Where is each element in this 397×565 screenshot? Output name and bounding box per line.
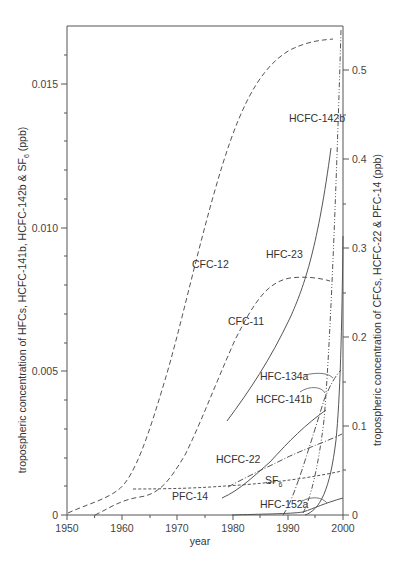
left-tick-0010: 0.010	[32, 222, 58, 234]
label-hfc152a: HFC-152a	[260, 498, 309, 510]
arrow-hfc134a	[305, 373, 333, 378]
right-y-ticks	[343, 70, 349, 515]
right-y-axis-title: tropospheric concentration of CFCs, HCFC…	[371, 154, 383, 446]
chart-svg: 1950 1960 1970 1980 1990 2000 year 0 0.0…	[0, 0, 397, 565]
right-tick-01: 0.1	[352, 420, 367, 432]
label-hfc134a: HFC-134a	[260, 370, 309, 382]
series-labels: HCFC-142b HFC-23 CFC-12 CFC-11 HFC-134a …	[172, 112, 345, 510]
label-cfc11: CFC-11	[228, 315, 264, 327]
label-cfc12: CFC-12	[192, 258, 229, 270]
x-tick-1980: 1980	[221, 522, 245, 534]
label-hcfc141b: HCFC-141b	[256, 393, 312, 405]
series-cfc12	[68, 39, 333, 513]
x-tick-1970: 1970	[165, 522, 189, 534]
x-tick-1960: 1960	[110, 522, 134, 534]
x-ticks	[67, 515, 343, 520]
right-tick-0: 0	[352, 509, 358, 521]
left-tick-0005: 0.005	[32, 365, 58, 377]
label-hcfc142b: HCFC-142b	[289, 112, 345, 124]
left-y-tick-labels: 0 0.005 0.010 0.015	[32, 78, 58, 521]
series-hcfc141b	[283, 370, 341, 515]
left-y-axis-title: tropospheric concentration of HFCs, HCFC…	[16, 127, 30, 473]
right-tick-03: 0.3	[352, 242, 367, 254]
left-y-ticks	[61, 55, 67, 515]
right-tick-05: 0.5	[352, 64, 367, 76]
series-pfc14	[133, 471, 342, 489]
left-tick-0015: 0.015	[32, 78, 58, 90]
series-hcfc142b	[303, 30, 341, 513]
x-tick-1990: 1990	[276, 522, 300, 534]
label-hcfc22: HCFC-22	[216, 453, 260, 465]
label-sf6: SF6	[265, 474, 282, 488]
left-tick-0: 0	[52, 509, 58, 521]
right-y-tick-labels: 0 0.1 0.2 0.3 0.4 0.5	[352, 64, 367, 521]
x-tick-1950: 1950	[55, 522, 79, 534]
label-hfc23: HFC-23	[266, 248, 303, 260]
x-tick-2000: 2000	[331, 522, 355, 534]
right-tick-02: 0.2	[352, 331, 367, 343]
right-tick-04: 0.4	[352, 153, 367, 165]
label-pfc14: PFC-14	[172, 490, 208, 502]
x-axis-title: year	[190, 535, 211, 547]
x-tick-labels: 1950 1960 1970 1980 1990 2000	[55, 522, 355, 534]
